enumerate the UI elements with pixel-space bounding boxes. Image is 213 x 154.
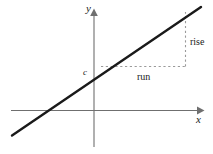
- rise-label: rise: [190, 37, 204, 47]
- x-axis-label: x: [196, 114, 201, 125]
- y-intercept-label: c: [83, 68, 87, 77]
- y-axis-label: y: [86, 3, 91, 14]
- y-axis-arrowhead: [90, 9, 98, 17]
- x-axis-group: [11, 107, 205, 115]
- graph-line: [12, 7, 201, 136]
- run-label: run: [137, 72, 150, 82]
- slope-diagram-figure: y x c rise run: [0, 0, 213, 154]
- slope-diagram-canvas: [0, 0, 213, 154]
